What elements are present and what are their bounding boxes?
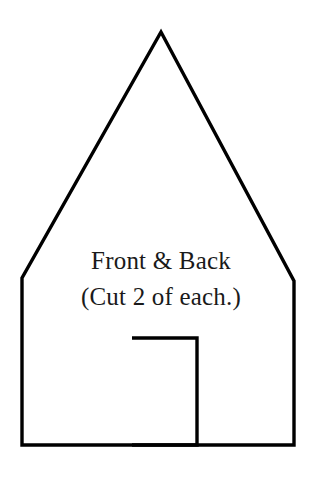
house-pattern-drawing — [0, 0, 322, 477]
pattern-canvas: Front & Back (Cut 2 of each.) — [0, 0, 322, 477]
